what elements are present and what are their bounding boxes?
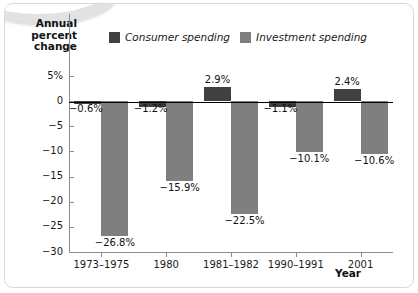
- x-axis-tick: [101, 252, 102, 257]
- legend-swatch-icon-consumer: [109, 32, 120, 43]
- x-axis-tick: [166, 252, 167, 257]
- y-axis-line: [69, 14, 70, 253]
- figure-card: Annual percent change Consumer spending …: [4, 3, 414, 288]
- x-axis-title: Year: [335, 267, 361, 279]
- y-axis-tick: [69, 252, 74, 253]
- bar-value-label: −22.5%: [217, 215, 273, 226]
- bar-value-label: −0.6%: [58, 103, 114, 114]
- y-axis-tick: [69, 126, 74, 127]
- y-axis-tick-label: −30: [19, 246, 63, 257]
- y-axis-tick-label: 0: [19, 95, 63, 106]
- chart-plot-area: Annual percent change Consumer spending …: [5, 4, 414, 288]
- legend-item-investment-spending: Investment spending: [240, 31, 367, 43]
- bar-consumer-4[interactable]: [334, 89, 361, 101]
- chart-legend: Consumer spending Investment spending: [109, 31, 367, 43]
- x-axis-tick: [361, 252, 362, 257]
- y-axis-tick: [69, 227, 74, 228]
- zero-baseline: [69, 102, 393, 103]
- x-axis-tick: [296, 252, 297, 257]
- x-axis-tick: [231, 252, 232, 257]
- legend-label-consumer: Consumer spending: [125, 31, 230, 43]
- bar-value-label: −26.8%: [87, 237, 143, 248]
- bar-value-label: −1.2%: [123, 103, 179, 114]
- y-axis-tick-label: −20: [19, 195, 63, 206]
- y-axis-tick-label: −25: [19, 220, 63, 231]
- bar-value-label: −15.9%: [152, 182, 208, 193]
- y-axis-tick: [69, 202, 74, 203]
- bar-investment-4[interactable]: [361, 101, 388, 154]
- y-axis-tick-label: 5%: [19, 70, 63, 81]
- bar-value-label: −1.1%: [252, 103, 308, 114]
- bar-value-label: −10.1%: [281, 153, 337, 164]
- legend-swatch-icon-investment: [240, 32, 251, 43]
- y-axis-tick: [69, 151, 74, 152]
- y-axis-tick-label: −10: [19, 145, 63, 156]
- legend-item-consumer-spending: Consumer spending: [109, 31, 230, 43]
- y-axis-tick: [69, 76, 74, 77]
- bar-consumer-2[interactable]: [204, 87, 231, 102]
- bar-investment-2[interactable]: [231, 101, 258, 214]
- y-axis-tick-label: −15: [19, 170, 63, 181]
- y-axis-tick: [69, 177, 74, 178]
- y-axis-tick-label: −5: [19, 120, 63, 131]
- bar-investment-0[interactable]: [101, 101, 128, 236]
- bar-value-label: −10.6%: [346, 155, 402, 166]
- bar-value-label: 2.9%: [190, 74, 246, 85]
- legend-label-investment: Investment spending: [256, 31, 367, 43]
- bar-value-label: 2.4%: [319, 76, 375, 87]
